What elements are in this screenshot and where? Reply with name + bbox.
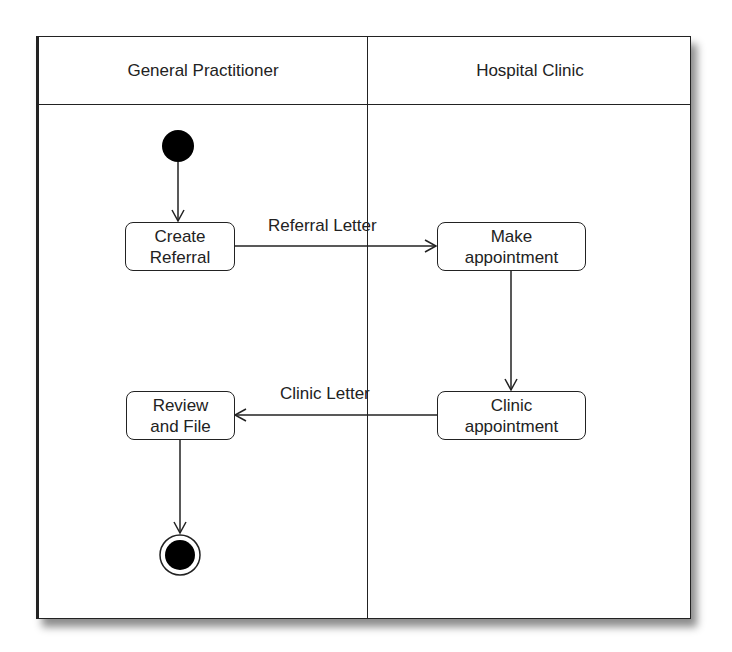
initial-node-icon — [162, 130, 194, 162]
activity-label-line1: Create — [126, 226, 234, 247]
activity-label-line1: Make — [438, 226, 585, 247]
activity-label-line2: Referral — [126, 247, 234, 268]
flow-edges — [0, 0, 732, 652]
activity-label-line2: appointment — [438, 416, 585, 437]
activity-label-line1: Review — [127, 395, 234, 416]
flow-label-clinic-letter: Clinic Letter — [280, 384, 370, 404]
final-node-icon — [160, 535, 200, 575]
activity-review-and-file[interactable]: Review and File — [126, 391, 235, 440]
flow-label-referral-letter: Referral Letter — [268, 216, 377, 236]
activity-create-referral[interactable]: Create Referral — [125, 222, 235, 271]
activity-make-appointment[interactable]: Make appointment — [437, 222, 586, 271]
activity-clinic-appointment[interactable]: Clinic appointment — [437, 391, 586, 440]
activity-label-line1: Clinic — [438, 395, 585, 416]
activity-label-line2: appointment — [438, 247, 585, 268]
activity-label-line2: and File — [127, 416, 234, 437]
